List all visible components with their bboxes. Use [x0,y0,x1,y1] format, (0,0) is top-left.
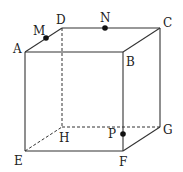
label-p: P [108,127,116,141]
edge-eh-hidden [25,127,62,151]
label-n: N [100,11,111,25]
label-e: E [14,154,23,168]
label-b: B [126,55,135,69]
label-a: A [12,42,22,56]
label-f: F [119,155,127,169]
point-p-dot [120,131,126,137]
edge-fg [123,127,160,151]
label-c: C [163,16,172,30]
edge-bc [123,28,160,52]
point-n-dot [102,25,108,31]
cube-figure: A B C D E F G H M N P [0,0,183,172]
cube-diagram: A B C D E F G H M N P [0,0,183,172]
label-d: D [56,13,66,27]
label-m: M [33,24,45,38]
label-h: H [59,131,69,145]
label-g: G [163,123,173,137]
